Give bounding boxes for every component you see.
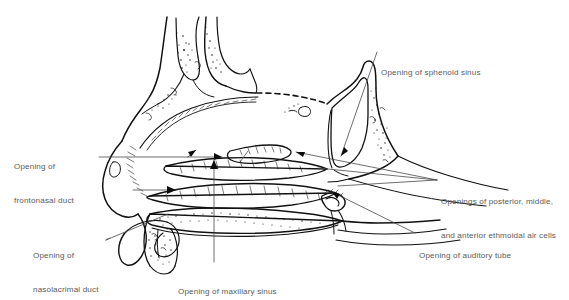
- superior-concha: [227, 145, 291, 163]
- label-line: Opening of auditory tube: [419, 250, 511, 261]
- frontal-bone: [122, 17, 257, 141]
- label-line: frontonasal duct: [14, 195, 74, 206]
- ethmoidal-air-cells: [284, 103, 310, 116]
- hard-palate-stipple: [148, 212, 320, 264]
- label-opening-of-auditory-tube: Opening of auditory tube: [419, 228, 511, 284]
- label-opening-of-frontonasal-duct: Opening of frontonasal duct: [14, 139, 74, 229]
- label-line: Opening of: [14, 161, 74, 172]
- middle-concha: [164, 158, 327, 181]
- label-opening-of-nasolacrimal-duct: Opening of nasolacrimal duct: [33, 228, 99, 300]
- label-line: nasolacrimal duct: [33, 284, 99, 295]
- leader-auditory-tube: [332, 192, 415, 233]
- nasal-cavity-roof: [140, 97, 258, 150]
- label-line: Opening of: [33, 250, 99, 261]
- label-line: Openings of posterior, middle,: [441, 196, 556, 207]
- label-line: Opening of sphenoid sinus: [381, 67, 481, 78]
- leader-sphenoid-sinus: [341, 52, 377, 156]
- leader-nasolacrimal-arrow: [133, 186, 176, 194]
- torus-tubarius: [322, 189, 346, 234]
- label-opening-of-maxillary-sinus: Opening of maxillary sinus: [178, 264, 277, 300]
- inferior-concha: [147, 184, 336, 209]
- leader-maxillary-sinus: [210, 160, 218, 262]
- label-line: Opening of maxillary sinus: [178, 286, 277, 297]
- label-opening-of-sphenoid-sinus: Opening of sphenoid sinus: [381, 45, 481, 101]
- cribriform-plate: [257, 93, 327, 104]
- leader-frontonasal-duct: [99, 150, 222, 160]
